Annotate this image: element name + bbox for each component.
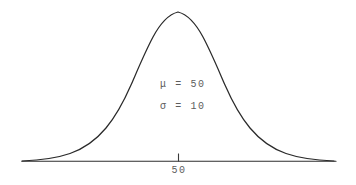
sigma-annotation: σ = 10 xyxy=(160,102,206,112)
x-axis-tick-label: 50 xyxy=(168,166,190,176)
bell-curve-plot xyxy=(0,0,356,185)
mean-annotation: μ = 50 xyxy=(160,80,206,90)
normal-distribution-figure: μ = 50 σ = 10 50 xyxy=(0,0,356,185)
